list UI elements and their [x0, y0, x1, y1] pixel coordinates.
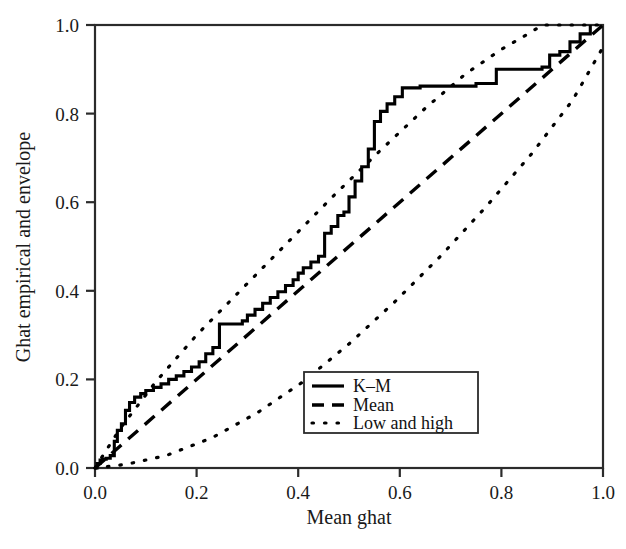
x-tick-label: 0.6: [388, 482, 412, 503]
y-tick-label: 0.6: [55, 192, 79, 213]
y-axis-title: Ghat empirical and envelope: [12, 132, 35, 363]
legend-label-mean: Mean: [353, 395, 394, 415]
y-tick-label: 0.0: [55, 458, 79, 479]
legend: K–M Mean Low and high: [304, 372, 478, 433]
y-tick-label: 0.8: [55, 104, 79, 125]
legend-label-km: K–M: [353, 376, 391, 396]
y-tick-label: 0.2: [55, 369, 79, 390]
x-tick-label: 1.0: [591, 482, 615, 503]
chart-figure: 0.00.20.40.60.81.0 0.00.20.40.60.81.0 Me…: [0, 0, 626, 549]
x-tick-label: 0.2: [185, 482, 209, 503]
x-tick-label: 0.8: [490, 482, 514, 503]
legend-label-envelope: Low and high: [353, 413, 453, 433]
chart-canvas: 0.00.20.40.60.81.0 0.00.20.40.60.81.0 Me…: [0, 0, 626, 549]
x-axis-title: Mean ghat: [307, 506, 392, 529]
y-tick-label: 1.0: [55, 15, 79, 36]
x-tick-label: 0.0: [83, 482, 107, 503]
y-tick-label: 0.4: [55, 281, 79, 302]
x-tick-label: 0.4: [286, 482, 310, 503]
